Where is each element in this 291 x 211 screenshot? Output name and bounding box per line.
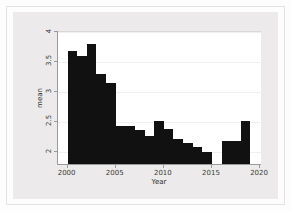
- y-tick-mark: [54, 91, 57, 92]
- y-tick-label: 2: [45, 146, 53, 156]
- figure-panel: 20002005201020152020 22.533.54 Year mean: [13, 12, 278, 199]
- y-tick-mark: [54, 31, 57, 32]
- x-tick-label: 2000: [58, 169, 76, 177]
- x-axis-title: Year: [152, 178, 167, 186]
- x-tick-mark: [211, 165, 212, 168]
- bar: [77, 56, 87, 164]
- bar: [145, 136, 155, 164]
- x-tick-mark: [115, 165, 116, 168]
- bar: [68, 51, 78, 164]
- x-tick-label: 2010: [154, 169, 172, 177]
- y-tick-label: 2.5: [45, 116, 53, 126]
- bar: [222, 141, 232, 164]
- y-axis-title: mean: [36, 88, 44, 108]
- y-tick-mark: [54, 121, 57, 122]
- y-tick-label: 4: [45, 26, 53, 36]
- bar: [116, 126, 126, 164]
- y-tick-mark: [54, 151, 57, 152]
- x-tick-label: 2005: [106, 169, 124, 177]
- x-tick-label: 2015: [202, 169, 220, 177]
- bar-series: [58, 32, 261, 164]
- bar: [193, 147, 203, 164]
- bar: [173, 139, 183, 164]
- bar: [164, 129, 174, 164]
- bar: [87, 44, 97, 164]
- x-tick-mark: [67, 165, 68, 168]
- plot-area: [57, 31, 261, 164]
- x-tick-mark: [163, 165, 164, 168]
- y-axis-line: [57, 31, 58, 164]
- bar: [96, 74, 106, 164]
- x-tick-label: 2020: [250, 169, 268, 177]
- bar: [135, 130, 145, 164]
- y-tick-label: 3: [45, 86, 53, 96]
- bar: [154, 121, 164, 164]
- bar: [125, 126, 135, 164]
- x-axis-line: [57, 164, 261, 165]
- bar: [231, 141, 241, 164]
- figure-frame: 20002005201020152020 22.533.54 Year mean: [0, 0, 291, 211]
- x-tick-mark: [259, 165, 260, 168]
- bar: [202, 152, 212, 164]
- bar: [183, 143, 193, 164]
- y-tick-mark: [54, 61, 57, 62]
- bar: [106, 83, 116, 164]
- bar: [241, 121, 251, 164]
- y-tick-label: 3.5: [45, 56, 53, 66]
